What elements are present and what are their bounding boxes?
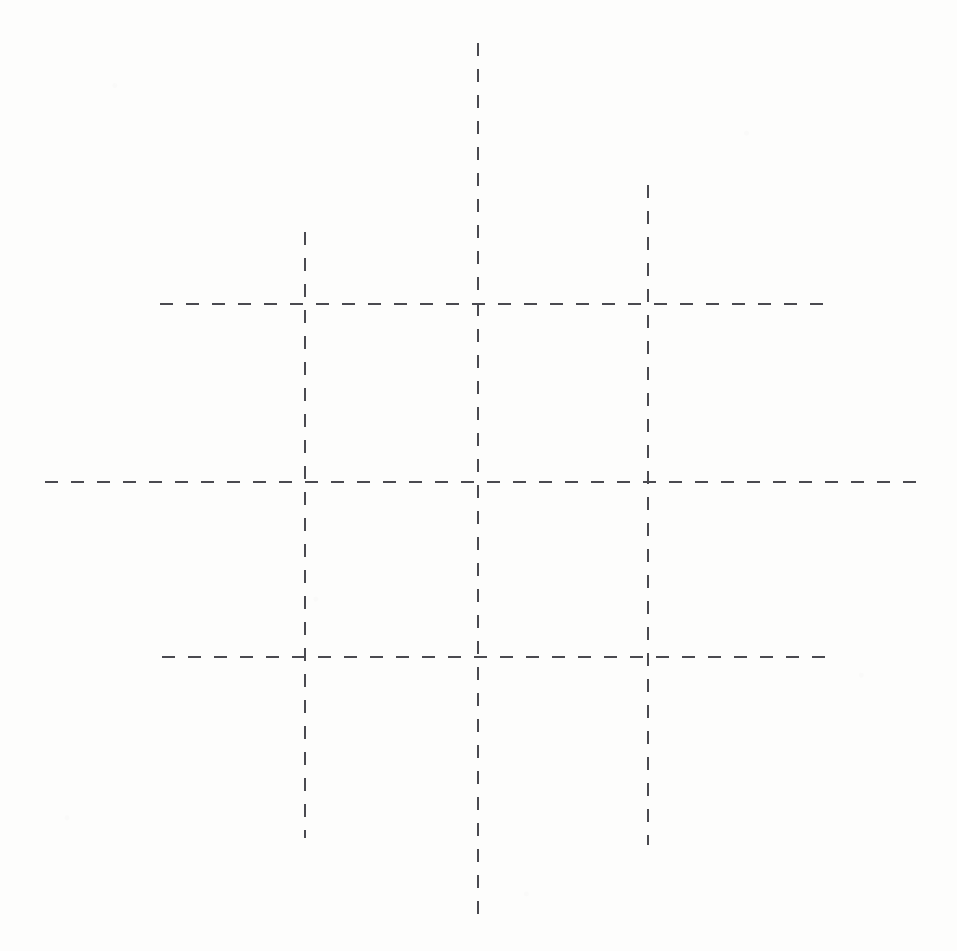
- vertical-lines-group: [305, 43, 648, 915]
- dashed-grid-svg: [0, 0, 957, 951]
- diagram-canvas: [0, 0, 957, 951]
- horizontal-lines-group: [45, 304, 917, 657]
